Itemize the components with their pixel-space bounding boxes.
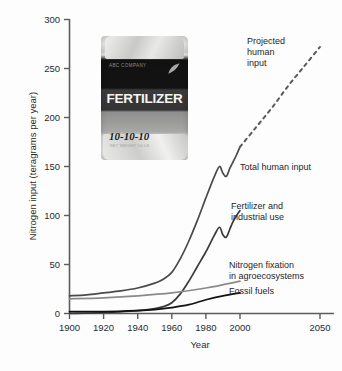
fertilizer-bag-photo: ABC COMPANY FERTILIZER 10-10-10 NET WEIG…: [101, 36, 188, 160]
x-tick-label: 1900: [59, 322, 80, 333]
y-tick-label: 0: [55, 308, 60, 319]
y-axis-title: Nitrogen input (teragrams per year): [27, 92, 38, 240]
x-tick-label: 1960: [161, 322, 182, 333]
nitrogen-input-chart-figure: 050100150200250300 190019201940196019802…: [0, 0, 342, 371]
y-tick-label: 100: [44, 210, 60, 221]
y-tick-label: 150: [44, 161, 60, 172]
bag-product-text: FERTILIZER: [105, 91, 184, 106]
bag-npk-text: 10-10-10: [109, 130, 149, 142]
x-tick-label: 1940: [127, 322, 148, 333]
x-tick-label: 2000: [229, 322, 250, 333]
label-nitrogen-fixation-line2: in agroecosystems: [229, 271, 305, 281]
bag-company-text: ABC COMPANY: [109, 63, 146, 68]
y-tick-label: 250: [44, 63, 60, 74]
x-tick-label: 1980: [195, 322, 216, 333]
bag-fine-print: NET WEIGHT 50 LB: [110, 144, 149, 148]
label-fossil-fuels: Fossil fuels: [229, 286, 275, 296]
label-total-human-input: Total human input: [240, 162, 312, 172]
y-tick-label: 300: [44, 14, 60, 25]
label-projected-human-input-line2: human: [247, 47, 275, 57]
bag-leaf-logo-icon: [166, 62, 181, 75]
bag-top-fold: [105, 36, 184, 59]
label-fertilizer-industrial-line1: Fertilizer and: [231, 201, 283, 211]
y-tick-label: 200: [44, 112, 60, 123]
label-fertilizer-industrial-line2: industrial use: [231, 212, 284, 222]
y-tick-label: 50: [49, 259, 60, 270]
x-axis-title: Year: [190, 339, 209, 350]
label-projected-human-input-line3: input: [247, 58, 267, 68]
x-tick-label: 2050: [309, 322, 330, 333]
label-projected-human-input-line1: Projected: [247, 36, 285, 46]
label-nitrogen-fixation-line1: Nitrogen fixation: [229, 260, 294, 270]
x-tick-label: 1920: [93, 322, 114, 333]
